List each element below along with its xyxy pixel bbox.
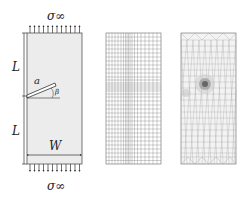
length-lower-label: L	[11, 124, 20, 138]
mesh-horizontal-lines	[106, 37, 161, 161]
mesh-vertical-lines	[109, 33, 157, 164]
geometry-panel: σ∞ σ∞ L L W a β	[11, 9, 82, 193]
stress-top-label: σ∞	[47, 9, 65, 23]
unstructured-mesh-panel	[181, 33, 236, 164]
stress-bottom-label: σ∞	[47, 179, 65, 193]
length-upper-label: L	[11, 60, 20, 74]
top-traction-arrows	[30, 26, 80, 33]
crack-length-label: a	[34, 75, 40, 86]
structured-mesh-panel	[106, 33, 161, 164]
crack-angle-label: β	[54, 88, 59, 96]
width-label: W	[49, 139, 63, 153]
figure: σ∞ σ∞ L L W a β	[0, 0, 247, 198]
bottom-traction-arrows	[30, 164, 80, 171]
